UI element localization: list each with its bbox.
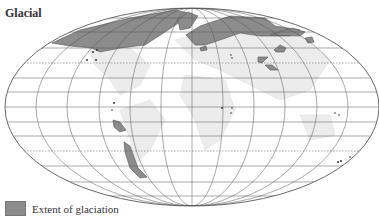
legend-swatch-glaciation: [5, 201, 26, 216]
legend-label: Extent of glaciation: [32, 203, 119, 215]
legend: Extent of glaciation: [5, 201, 119, 216]
world-map: [0, 0, 379, 220]
